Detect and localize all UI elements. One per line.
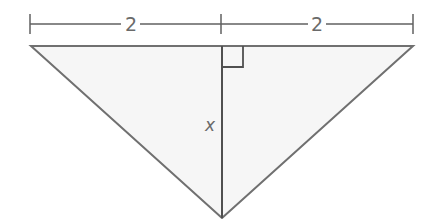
right-dimension-label: 2 [311, 13, 323, 35]
triangle-diagram: 2 2 x [0, 0, 430, 219]
altitude-label: x [204, 115, 216, 135]
left-dimension-label: 2 [125, 13, 137, 35]
